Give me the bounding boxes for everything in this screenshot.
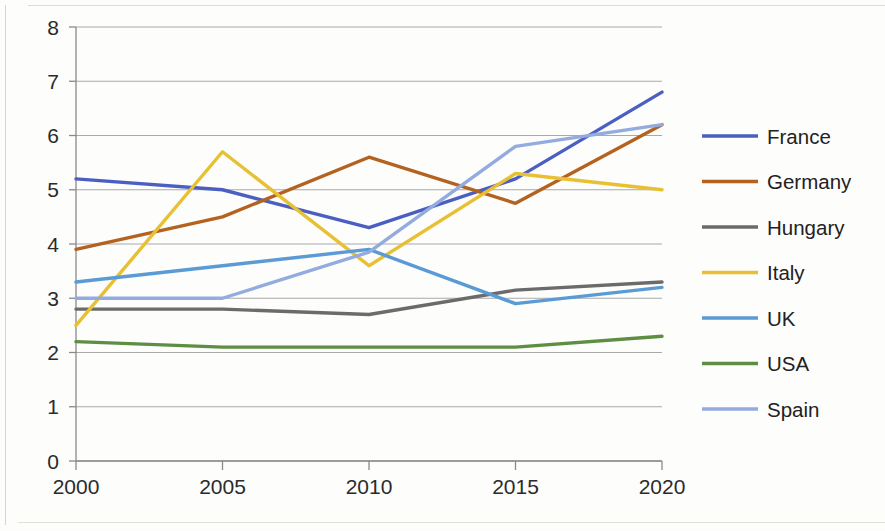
y-tick-label: 7 (47, 70, 59, 93)
chart-plot-area: 012345678 20002005201020152020 FranceGer… (0, 0, 885, 531)
line-chart: 012345678 20002005201020152020 FranceGer… (0, 0, 885, 531)
x-tick-label: 2005 (199, 475, 246, 498)
y-tick-label: 8 (47, 16, 59, 39)
legend-label-uk: UK (767, 307, 796, 330)
y-tick-label: 3 (47, 287, 59, 310)
series-line-france (76, 92, 662, 228)
series-line-usa (76, 336, 662, 347)
y-tick-label: 0 (47, 450, 59, 473)
legend-label-italy: Italy (767, 261, 805, 284)
y-tick-label: 4 (47, 233, 59, 256)
gridlines (76, 27, 662, 461)
y-tick-label: 5 (47, 178, 59, 201)
y-tick-label: 2 (47, 341, 59, 364)
series-line-uk (76, 249, 662, 303)
legend-label-germany: Germany (767, 170, 852, 193)
chart-legend: FranceGermanyHungaryItalyUKUSASpain (702, 125, 852, 421)
data-series-group (76, 92, 662, 347)
legend-label-usa: USA (767, 352, 809, 375)
legend-label-hungary: Hungary (767, 216, 845, 239)
x-tick-label: 2020 (639, 475, 686, 498)
x-axis-tick-labels: 20002005201020152020 (53, 475, 686, 498)
legend-label-france: France (767, 125, 831, 148)
y-axis-tick-labels: 012345678 (47, 16, 59, 473)
legend-label-spain: Spain (767, 398, 819, 421)
x-tick-label: 2010 (346, 475, 393, 498)
y-tick-label: 6 (47, 124, 59, 147)
y-tick-label: 1 (47, 395, 59, 418)
x-tick-label: 2000 (53, 475, 100, 498)
x-tick-label: 2015 (492, 475, 539, 498)
